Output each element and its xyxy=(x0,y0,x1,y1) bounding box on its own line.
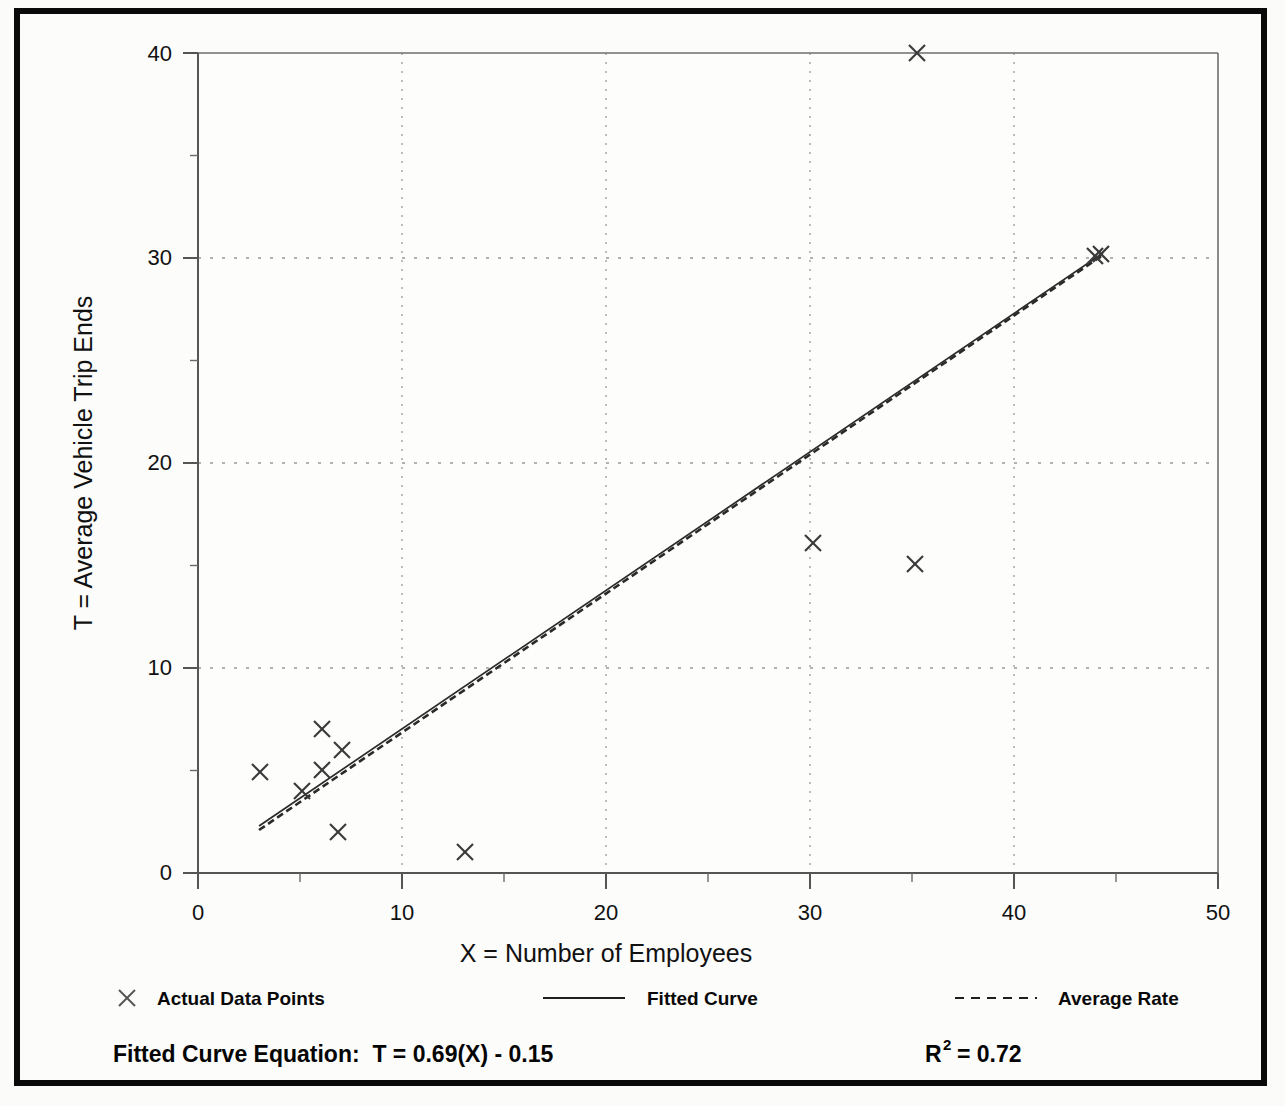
legend-item-actual-data-points[interactable]: Actual Data Points xyxy=(119,988,325,1009)
legend-label-actual-data-points: Actual Data Points xyxy=(157,988,325,1009)
r-squared-base: R xyxy=(925,1041,942,1067)
y-tick-label-40: 40 xyxy=(148,41,172,66)
y-tick-label-30: 30 xyxy=(148,245,172,270)
y-tick-label-0: 0 xyxy=(160,860,172,885)
y-tick-label-20: 20 xyxy=(148,450,172,475)
scatter-chart: 0 10 20 30 40 0 10 20 30 40 50 X = Numbe… xyxy=(0,0,1285,1106)
y-axis-major-ticks xyxy=(183,53,198,873)
y-axis-title: T = Average Vehicle Trip Ends xyxy=(69,296,97,631)
fitted-curve-equation-text: Fitted Curve Equation: T = 0.69(X) - 0.1… xyxy=(113,1041,554,1067)
r-squared-exponent: 2 xyxy=(943,1036,951,1053)
equation-label: Fitted Curve Equation: xyxy=(113,1041,360,1067)
r-squared-value: = 0.72 xyxy=(957,1041,1022,1067)
y-tick-label-10: 10 xyxy=(148,655,172,680)
x-tick-label-10: 10 xyxy=(390,900,414,925)
x-axis-minor-ticks xyxy=(300,873,1116,882)
chart-figure: 0 10 20 30 40 0 10 20 30 40 50 X = Numbe… xyxy=(0,0,1285,1106)
x-tick-label-50: 50 xyxy=(1206,900,1230,925)
x-axis-title: X = Number of Employees xyxy=(460,939,753,967)
legend-item-average-rate[interactable]: Average Rate xyxy=(955,988,1179,1009)
x-tick-label-0: 0 xyxy=(192,900,204,925)
legend-label-fitted-curve: Fitted Curve xyxy=(647,988,758,1009)
equation-value: T = 0.69(X) - 0.15 xyxy=(372,1041,553,1067)
x-marker-icon xyxy=(119,990,135,1006)
legend-label-average-rate: Average Rate xyxy=(1058,988,1179,1009)
x-tick-label-30: 30 xyxy=(798,900,822,925)
x-tick-label-40: 40 xyxy=(1002,900,1026,925)
x-tick-label-20: 20 xyxy=(594,900,618,925)
legend-item-fitted-curve[interactable]: Fitted Curve xyxy=(543,988,758,1009)
footer-equation-row: Fitted Curve Equation: T = 0.69(X) - 0.1… xyxy=(113,1036,1022,1067)
